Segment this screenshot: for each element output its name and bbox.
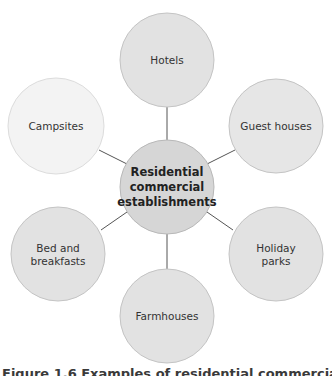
- connector-campsites: [99, 150, 127, 164]
- node-campsites: Campsites: [8, 78, 104, 174]
- node-label-campsites: Campsites: [28, 120, 83, 132]
- node-label-guest-houses: Guest houses: [240, 120, 311, 132]
- node-farmhouses: Farmhouses: [120, 269, 214, 363]
- node-label-bed-and-breakfasts-line2: breakfasts: [31, 255, 86, 267]
- node-label-hotels: Hotels: [150, 54, 183, 66]
- node-guest-houses: Guest houses: [229, 79, 323, 173]
- node-label-bed-and-breakfasts-line1: Bed and: [36, 242, 79, 254]
- connector-guest-houses: [207, 150, 235, 164]
- diagram-canvas: Hotels Guest houses Holiday parks Farmho…: [0, 0, 332, 376]
- connector-holiday-parks: [207, 212, 233, 230]
- node-holiday-parks: Holiday parks: [229, 207, 323, 301]
- node-bed-and-breakfasts: Bed and breakfasts: [11, 207, 105, 301]
- center-node: Residential commercial establishments: [117, 140, 217, 234]
- connector-bed-and-breakfasts: [101, 212, 127, 230]
- center-label-line1: Residential: [131, 165, 204, 179]
- node-label-farmhouses: Farmhouses: [135, 310, 198, 322]
- node-label-holiday-parks-line2: parks: [262, 255, 291, 267]
- center-label-line3: establishments: [117, 195, 217, 209]
- node-label-holiday-parks-line1: Holiday: [256, 242, 295, 254]
- node-hotels: Hotels: [120, 13, 214, 107]
- figure-caption: Figure 1.6 Examples of residential comme…: [2, 366, 332, 376]
- center-label-line2: commercial: [130, 180, 205, 194]
